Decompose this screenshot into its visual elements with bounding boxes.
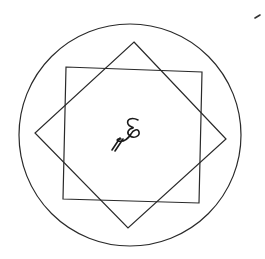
corner-mark: [255, 15, 260, 18]
center-glyph-icon: [112, 119, 139, 151]
geometric-diagram: [0, 0, 265, 259]
